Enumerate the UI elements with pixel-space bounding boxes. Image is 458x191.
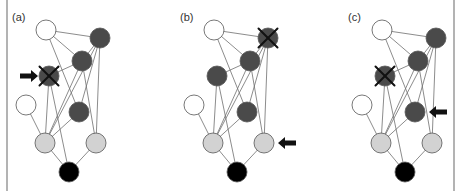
node-bottom-left-light: [35, 133, 55, 153]
panel-label: (c): [348, 11, 361, 23]
edge-mid-dark-to-bottom-right-light: [82, 61, 96, 143]
node-lower-dark: [69, 102, 89, 122]
panel-c: (c): [348, 11, 447, 182]
node-left-white: [184, 95, 204, 115]
node-bottom-right-light: [422, 133, 442, 153]
node-lower-dark: [237, 102, 257, 122]
node-bottom-right-light: [254, 133, 274, 153]
arrow-left-icon: [429, 106, 447, 118]
panel-label: (b): [180, 11, 193, 23]
node-bottom-left-light: [203, 133, 223, 153]
edge-top-right-dark-to-bottom-right-light: [264, 38, 268, 143]
arrow-left-icon: [278, 137, 296, 149]
panel-b: (b): [180, 11, 296, 182]
node-output-black: [59, 162, 79, 182]
node-output-black: [227, 162, 247, 182]
edge-mid-dark-to-bottom-right-light: [250, 61, 264, 143]
node-top-white: [204, 20, 224, 40]
panel-label: (a): [12, 11, 25, 23]
edge-mid-dark-to-bottom-right-light: [418, 61, 432, 143]
edges: [26, 30, 100, 172]
edge-top-right-dark-to-bottom-left-light: [45, 38, 100, 143]
node-output-black: [395, 162, 415, 182]
edge-top-right-dark-to-bottom-left-light: [213, 38, 268, 143]
node-lower-dark: [405, 102, 425, 122]
node-top-white: [36, 20, 56, 40]
panel-a: (a): [12, 11, 110, 182]
node-mid-dark: [408, 51, 428, 71]
node-left-white: [16, 95, 36, 115]
network-figure: (a)(b)(c): [0, 0, 458, 191]
node-bottom-right-light: [86, 133, 106, 153]
edge-top-right-dark-to-lower-dark: [247, 38, 268, 112]
node-top-right-dark: [426, 28, 446, 48]
node-left-dark: [207, 66, 227, 86]
edge-top-right-dark-to-lower-dark: [415, 38, 436, 112]
node-mid-dark: [72, 51, 92, 71]
node-top-white: [372, 20, 392, 40]
edge-top-right-dark-to-bottom-right-light: [96, 38, 100, 143]
edges: [362, 30, 436, 172]
edge-top-right-dark-to-lower-dark: [79, 38, 100, 112]
node-mid-dark: [240, 51, 260, 71]
edge-top-right-dark-to-bottom-right-light: [432, 38, 436, 143]
node-left-white: [352, 95, 372, 115]
node-top-right-dark: [90, 28, 110, 48]
node-bottom-left-light: [371, 133, 391, 153]
edges: [194, 30, 268, 172]
edge-top-right-dark-to-bottom-left-light: [381, 38, 436, 143]
arrow-right-icon: [20, 70, 38, 82]
